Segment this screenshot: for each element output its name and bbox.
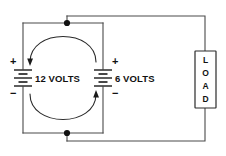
circuit-diagram: L O A D + − 12 VOLTS + − 6 VOLTS: [0, 0, 226, 156]
battery-left-annotations: + − 12 VOLTS: [10, 55, 80, 99]
top-node-junction-dot: [64, 20, 70, 26]
loop-arrow-head-left-down-icon: [27, 59, 33, 67]
circuit-svg: L O A D + − 12 VOLTS + − 6 VOLTS: [0, 0, 226, 156]
bottom-node-junction-dot: [64, 130, 70, 136]
battery-right-symbol: [94, 70, 112, 86]
load-block: L O A D: [195, 51, 216, 108]
load-letter-l: L: [203, 55, 208, 65]
loop-arc-upper: [30, 37, 96, 63]
battery-left-label: 12 VOLTS: [35, 73, 80, 84]
battery-left-minus-sign: −: [10, 87, 16, 99]
battery-left-symbol: [14, 70, 32, 86]
battery-right-minus-sign: −: [112, 87, 118, 99]
bottom-return-wire: [67, 108, 205, 141]
battery-right-plus-sign: +: [112, 55, 118, 67]
battery-right-label: 6 VOLTS: [115, 73, 155, 84]
loop-arrow-head-right-up-icon: [93, 90, 99, 98]
load-letter-o: O: [202, 68, 209, 78]
loop-arc-lower: [30, 94, 96, 120]
top-supply-wire: [67, 16, 205, 51]
load-letter-d: D: [202, 94, 208, 104]
battery-right-annotations: + − 6 VOLTS: [112, 55, 155, 99]
battery-left-plus-sign: +: [10, 55, 16, 67]
load-letter-a: A: [202, 81, 208, 91]
